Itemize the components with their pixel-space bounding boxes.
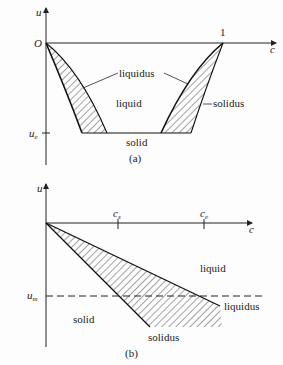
label-liquid-a: liquid <box>116 97 142 109</box>
label-solidus-a: solidus <box>213 97 244 109</box>
tick-label-ce: ce <box>200 207 208 221</box>
caption-b: (b) <box>125 347 138 360</box>
panel-b: u c cs ce um liquid liquidus solid solid… <box>27 182 262 360</box>
label-liquidus-b: liquidus <box>224 300 259 312</box>
tick-label-cs: cs <box>113 207 121 221</box>
figure-svg: u O 1 c ue liquidus liquid solidus solid… <box>0 0 283 365</box>
two-phase-region-right <box>161 43 223 133</box>
label-solid-b: solid <box>73 313 95 325</box>
label-solid-a: solid <box>126 136 148 148</box>
phase-diagram-figure: u O 1 c ue liquidus liquid solidus solid… <box>0 0 283 365</box>
panel-a: u O 1 c ue liquidus liquid solidus solid… <box>29 6 276 165</box>
label-liquid-b: liquid <box>200 262 226 274</box>
tick-label-ue: ue <box>29 127 38 141</box>
axis-label-u-a: u <box>36 6 42 18</box>
label-liquidus-a: liquidus <box>119 67 154 79</box>
label-solidus-b: solidus <box>148 331 179 343</box>
origin-label: O <box>34 37 42 49</box>
axis-label-u-b: u <box>37 182 43 194</box>
tick-label-um: um <box>27 289 38 303</box>
caption-a: (a) <box>129 152 142 165</box>
axis-label-c-b: c <box>249 223 254 235</box>
tick-label-1: 1 <box>220 26 226 38</box>
axis-label-c-a: c <box>270 43 275 55</box>
